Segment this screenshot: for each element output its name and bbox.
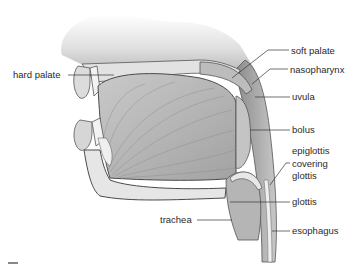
upper-lip [74, 66, 90, 98]
label-glottis: glottis [292, 196, 317, 207]
lower-lip [74, 120, 92, 150]
label-uvula: uvula [292, 91, 315, 102]
label-nasopharynx: nasopharynx [290, 64, 344, 75]
tongue [98, 74, 236, 181]
label-epiglottis-line3: glottis [292, 170, 317, 181]
label-esophagus: esophagus [292, 225, 338, 236]
label-epiglottis-line2: covering [292, 158, 328, 169]
figure-caption-fragment [8, 262, 18, 264]
label-trachea: trachea [160, 214, 192, 225]
label-epiglottis-line1: epiglottis [292, 145, 330, 156]
label-bolus: bolus [292, 124, 315, 135]
label-hard-palate: hard palate [13, 69, 61, 80]
swallowing-diagram: hard palate soft palate nasopharynx uvul… [0, 0, 358, 267]
label-soft-palate: soft palate [291, 45, 335, 56]
